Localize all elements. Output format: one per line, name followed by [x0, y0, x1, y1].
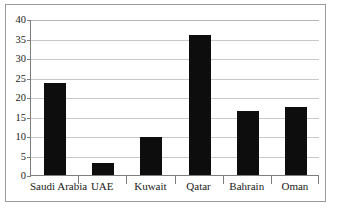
y-axis-tick-label: 15	[6, 112, 26, 123]
gridline	[31, 20, 319, 21]
y-axis-tick	[27, 118, 31, 119]
y-axis-tick	[27, 98, 31, 99]
gridline	[31, 118, 319, 119]
plot-wrapper: 0510152025303540 Saudi ArabiaUAEKuwaitQa…	[6, 5, 325, 201]
y-axis-tick-label: 30	[6, 54, 26, 65]
y-axis-tick-label: 0	[6, 171, 26, 182]
y-axis-tick	[27, 79, 31, 80]
bar	[189, 35, 211, 175]
y-axis-tick	[27, 157, 31, 158]
bar	[92, 163, 114, 175]
x-axis-tick-label: Oman	[271, 181, 319, 192]
x-axis-tick-label: Qatar	[175, 181, 223, 192]
y-axis-tick-label: 35	[6, 34, 26, 45]
y-axis-tick-label: 25	[6, 73, 26, 84]
gridline	[31, 157, 319, 158]
gridline	[31, 79, 319, 80]
gridline	[31, 59, 319, 60]
gridline	[31, 137, 319, 138]
gridline	[31, 40, 319, 41]
y-axis-labels: 0510152025303540	[6, 20, 26, 176]
chart-frame: 0510152025303540 Saudi ArabiaUAEKuwaitQa…	[5, 4, 326, 202]
y-axis-tick	[27, 137, 31, 138]
y-axis-tick-label: 40	[6, 15, 26, 26]
x-axis-tick-label: UAE	[78, 181, 126, 192]
bar	[285, 107, 307, 175]
x-axis-tick-label: Saudi Arabia	[30, 181, 78, 192]
y-axis-tick	[27, 59, 31, 60]
plot-area	[30, 20, 319, 176]
bar	[140, 137, 162, 175]
x-axis-tick-label: Kuwait	[126, 181, 174, 192]
x-axis-tick-label: Bahrain	[223, 181, 271, 192]
y-axis-tick-label: 20	[6, 93, 26, 104]
y-axis-tick-label: 10	[6, 132, 26, 143]
bar	[44, 83, 66, 175]
y-axis-tick-label: 5	[6, 151, 26, 162]
y-axis-tick	[27, 40, 31, 41]
x-axis-labels: Saudi ArabiaUAEKuwaitQatarBahrainOman	[30, 177, 319, 199]
gridline	[31, 98, 319, 99]
y-axis-tick	[27, 20, 31, 21]
bar	[237, 111, 259, 175]
